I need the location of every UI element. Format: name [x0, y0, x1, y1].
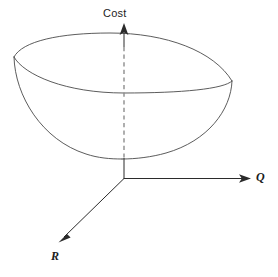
r-axis-line	[64, 179, 124, 238]
cost-axis	[120, 23, 129, 179]
rim-front-arc	[14, 57, 232, 93]
paraboloid-surface	[14, 33, 232, 159]
cost-axis-label: Cost	[103, 8, 126, 19]
paraboloid-diagram-svg	[0, 0, 278, 277]
r-axis	[59, 179, 125, 243]
q-axis-label: Q	[256, 171, 265, 183]
r-axis-label: R	[51, 250, 59, 262]
figure-canvas: Cost Q R	[0, 0, 278, 277]
rim-back-arc	[14, 33, 232, 81]
q-axis	[124, 174, 251, 183]
